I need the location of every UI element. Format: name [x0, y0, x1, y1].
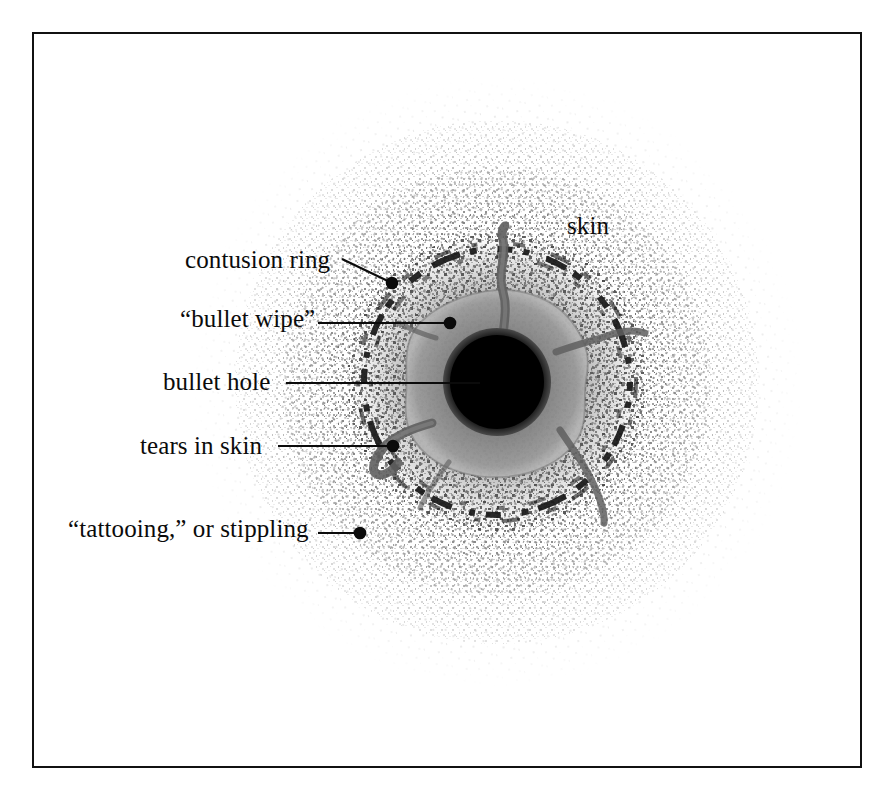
label-tattooing: “tattooing,” or stippling [68, 516, 309, 541]
leader-dot-tattooing [355, 528, 365, 538]
leader-dot-bullet-wipe [445, 318, 455, 328]
figure-page: contusion ring “bullet wipe” bullet hole… [0, 0, 883, 799]
leader-dot-tears-in-skin [388, 441, 398, 451]
leader-dot-contusion-ring [387, 278, 397, 288]
label-bullet-wipe: “bullet wipe” [180, 306, 315, 331]
label-tears-in-skin: tears in skin [140, 433, 262, 458]
label-contusion-ring: contusion ring [185, 247, 330, 272]
label-bullet-hole: bullet hole [163, 369, 270, 394]
label-skin: skin [567, 213, 609, 238]
wound-illustration [0, 0, 883, 799]
